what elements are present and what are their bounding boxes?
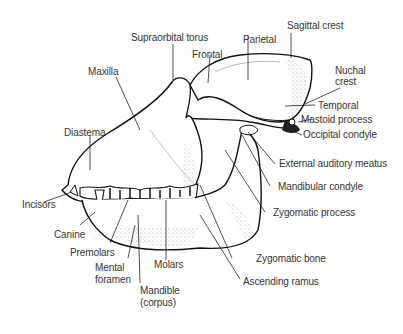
label-supraorbital-torus: Supraorbital torus [131, 32, 208, 43]
skull-diagram: Sagittal crest Supraorbital torus Pariet… [0, 0, 403, 334]
label-maxilla: Maxilla [88, 66, 118, 77]
label-sagittal-crest: Sagittal crest [287, 20, 343, 31]
label-nuchal-crest-2: crest [335, 76, 356, 87]
label-nuchal-crest-1: Nuchal [335, 65, 366, 76]
label-external-auditory-meatus: External auditory meatus [279, 158, 387, 169]
label-zygomatic-bone: Zygomatic bone [256, 253, 326, 264]
label-molars: Molars [154, 259, 183, 270]
label-premolars: Premolars [70, 247, 115, 258]
label-mandible-2: (corpus) [140, 297, 176, 308]
label-mandibular-condyle: Mandibular condyle [278, 181, 363, 192]
label-occipital-condyle: Occipital condyle [303, 129, 377, 140]
label-parietal: Parietal [243, 34, 276, 45]
label-mental-foramen-2: foramen [95, 274, 131, 285]
label-mandible-1: Mandible [140, 285, 180, 296]
label-canine: Canine [54, 229, 85, 240]
label-zygomatic-process: Zygomatic process [273, 207, 355, 218]
label-frontal: Frontal [192, 49, 222, 60]
label-mastoid-process: Mastoid process [301, 114, 372, 125]
label-ascending-ramus: Ascending ramus [243, 276, 319, 287]
label-diastema: Diastema [64, 127, 105, 138]
label-temporal: Temporal [318, 100, 358, 111]
label-incisors: Incisors [22, 199, 56, 210]
label-mental-foramen-1: Mental [95, 262, 124, 273]
